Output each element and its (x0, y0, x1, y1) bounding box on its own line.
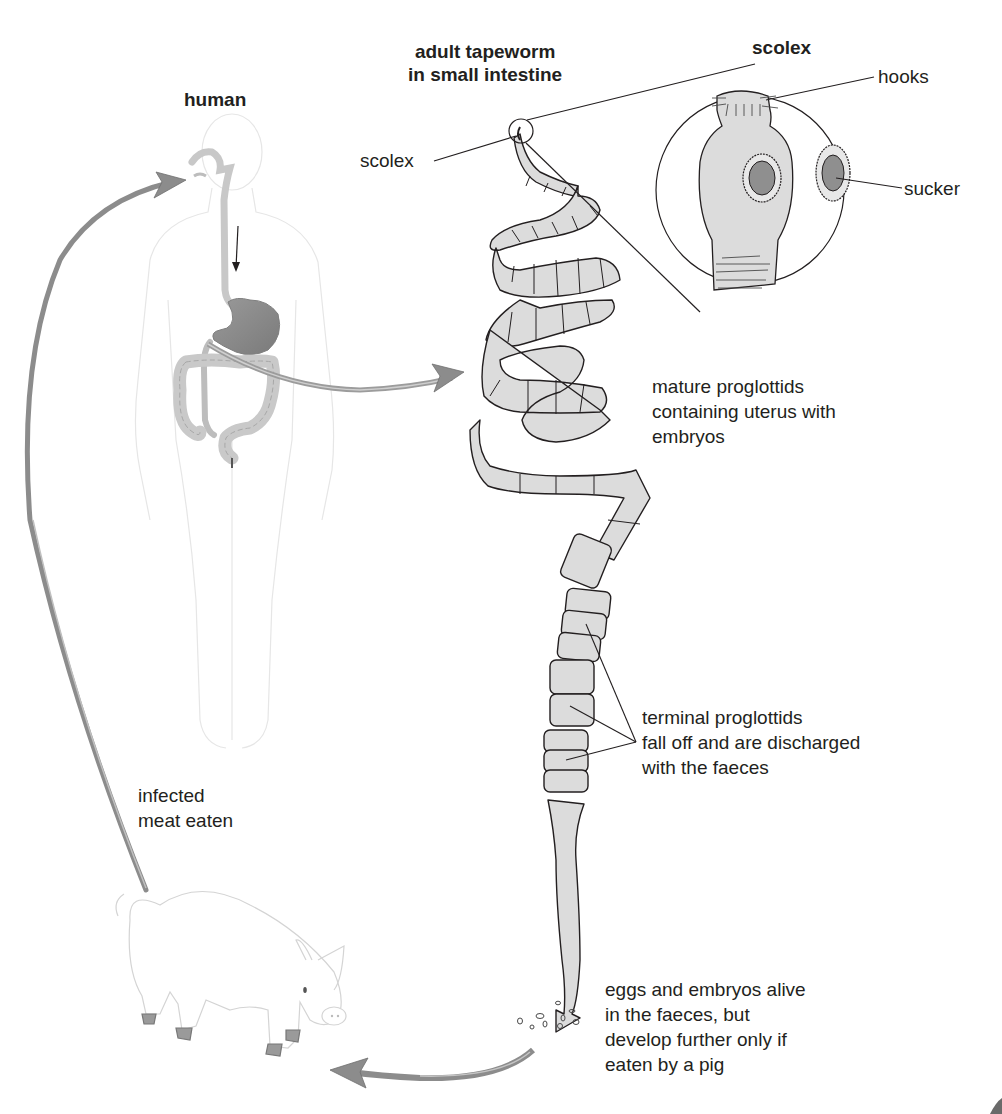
sucker-right (816, 145, 850, 201)
label-infected-meat: infected meat eaten (138, 783, 233, 833)
label-scolex-pointer: scolex (360, 148, 414, 173)
sucker-left (743, 154, 781, 202)
label-terminal-proglottids: terminal proglottids fall off and are di… (642, 705, 860, 780)
tapeworm-life-cycle-diagram: human adult tapeworm in small intestine … (0, 0, 1002, 1114)
pig (116, 892, 346, 1057)
label-mature-proglottids: mature proglottids containing uterus wit… (652, 374, 836, 449)
label-adult-tapeworm: adult tapeworm in small intestine (408, 40, 562, 86)
arrow-faeces-to-pig (330, 1050, 533, 1088)
label-scolex-title: scolex (752, 36, 811, 59)
digestive-tract (180, 152, 280, 468)
adult-tapeworm (470, 134, 650, 1032)
label-hooks: hooks (878, 64, 929, 89)
scolex-detail (699, 77, 902, 290)
label-sucker: sucker (904, 176, 960, 201)
corner-mark (990, 1098, 1002, 1114)
label-eggs-embryos: eggs and embryos alive in the faeces, bu… (605, 977, 806, 1077)
label-human: human (184, 88, 246, 111)
